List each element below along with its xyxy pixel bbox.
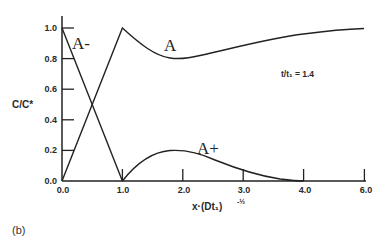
y-tick-label: 0.2 — [44, 145, 57, 155]
x-tick-label: 0.0 — [57, 185, 70, 195]
panel-label: (b) — [12, 224, 25, 236]
y-tick-label: 1.0 — [44, 23, 57, 33]
x-axis-label-exponent: -½ — [237, 198, 245, 205]
y-tick-label: 0.6 — [44, 84, 57, 94]
x-tick-label: 2.0 — [178, 185, 191, 195]
y-tick-label: 0.4 — [44, 115, 57, 125]
y-tick-label: 0.8 — [44, 54, 57, 64]
label-a-minus: A- — [72, 34, 90, 53]
y-axis-label: C/C* — [12, 99, 33, 110]
x-tick-label: 3.0 — [238, 185, 251, 195]
x-tick-label: 4.0 — [299, 185, 312, 195]
label-a: A — [164, 36, 177, 55]
x-tick-label: 6.0 — [360, 185, 373, 195]
time-ratio-annotation: t/t₁ = 1.4 — [281, 69, 314, 79]
y-tick-label: 0.0 — [44, 176, 57, 186]
x-tick-label: 1.0 — [117, 185, 130, 195]
curve-a — [62, 28, 364, 181]
label-a-plus: A+ — [197, 139, 219, 158]
x-axis-label: x·(Dt₁) — [192, 201, 222, 212]
chart: 0.0 0.2 0.4 0.6 0.8 1.0 0.0 1.0 2.0 3.0 … — [0, 0, 385, 246]
